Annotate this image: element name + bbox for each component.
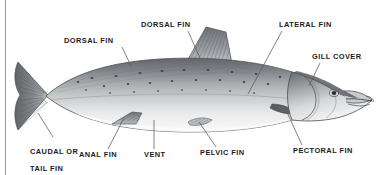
label-caudal-line-2: TAIL FIN [30,164,63,173]
label-pectoral-fin: PECTORAL FIN [293,147,353,156]
label-gill-cover: GILL COVER [312,53,362,62]
label-anal-fin: ANAL FIN [79,151,117,160]
caudal-fin-shape [15,62,48,130]
label-dorsal-fin-main: DORSAL FIN [141,21,191,30]
label-vent: VENT [144,151,166,160]
label-caudal-line-1: CAUDAL OR [30,147,78,156]
label-pelvic-fin: PELVIC FIN [200,149,245,158]
label-dorsal-fin-adipose: DORSAL FIN [64,37,114,46]
label-lateral-fin: LATERAL FIN [279,21,332,30]
fish-head-shape [288,71,374,121]
label-caudal-or-tail-fin: CAUDAL OR TAIL FIN [20,139,78,175]
leader-caudal-or-tail-fin [38,113,53,137]
fish-anatomy-diagram: DORSAL FIN DORSAL FIN LATERAL FIN GILL C… [0,0,380,175]
